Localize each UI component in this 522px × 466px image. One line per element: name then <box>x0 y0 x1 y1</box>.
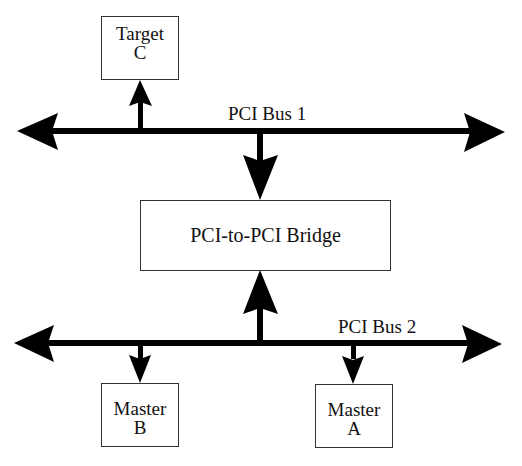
master-a-label-line1: Master <box>328 400 381 419</box>
master-b-label-line2: B <box>134 418 147 437</box>
master-a-label-line2: A <box>347 419 361 438</box>
arrow-bus2-to-master-b <box>129 343 151 383</box>
arrow-bus2-to-master-a <box>342 343 364 384</box>
pci-to-pci-bridge-box: PCI-to-PCI Bridge <box>140 200 391 271</box>
target-c-label-line2: C <box>134 43 147 62</box>
bridge-label: PCI-to-PCI Bridge <box>190 226 341 245</box>
pci-bus-1-label: PCI Bus 1 <box>228 104 306 123</box>
bus-2-right-arrowhead-icon <box>462 325 502 363</box>
master-b-box: Master B <box>101 383 179 447</box>
arrow-bus1-to-target-c <box>129 80 152 132</box>
pci-bus-2-label: PCI Bus 2 <box>338 317 416 336</box>
down-arrowhead-icon <box>342 356 364 384</box>
target-c-label-line1: Target <box>116 24 164 43</box>
master-b-label-line1: Master <box>114 399 167 418</box>
down-arrowhead-icon <box>243 155 278 200</box>
bus-1-left-arrowhead-icon <box>17 113 58 150</box>
master-a-box: Master A <box>315 384 393 448</box>
arrow-bus1-to-bridge <box>243 131 278 200</box>
arrow-bus2-to-bridge <box>243 270 278 344</box>
pci-bridge-diagram: PCI Bus 1 PCI Bus 2 Target C PCI-to-PCI … <box>0 0 522 466</box>
bus-1-right-arrowhead-icon <box>464 113 505 152</box>
up-arrowhead-icon <box>129 80 152 106</box>
down-arrowhead-icon <box>129 355 151 383</box>
bus-2-left-arrowhead-icon <box>14 325 54 362</box>
up-arrowhead-icon <box>243 270 278 314</box>
target-c-box: Target C <box>101 16 179 80</box>
